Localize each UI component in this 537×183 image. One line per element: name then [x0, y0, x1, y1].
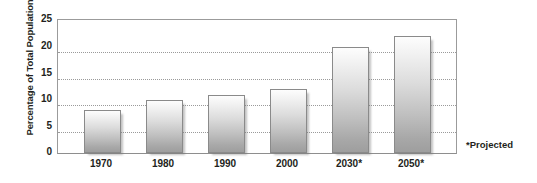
bar-1990[interactable]	[208, 95, 245, 154]
y-axis-tick-labels: 25 20 15 10 5 0	[30, 0, 52, 183]
x-tick-2050: 2050*	[381, 158, 441, 169]
y-tick-10: 10	[30, 94, 52, 104]
y-tick-15: 15	[30, 68, 52, 78]
x-tick-2000: 2000	[257, 158, 317, 169]
y-tick-5: 5	[30, 121, 52, 131]
y-tick-20: 20	[30, 41, 52, 51]
bar-1970[interactable]	[84, 110, 121, 153]
bar-2000[interactable]	[270, 89, 307, 153]
x-tick-1990: 1990	[195, 158, 255, 169]
bar-1980[interactable]	[146, 100, 183, 153]
projected-footnote: *Projected	[466, 139, 513, 150]
x-tick-1970: 1970	[71, 158, 131, 169]
y-tick-0: 0	[30, 147, 52, 157]
bar-2050-projected[interactable]	[394, 36, 431, 153]
x-axis-tick-labels: 1970 1980 1990 2000 2030* 2050*	[57, 158, 455, 178]
bars-layer	[58, 20, 456, 153]
plot-area	[57, 19, 457, 154]
bar-chart: Percentage of Total Population 25 20 15 …	[0, 0, 537, 183]
x-tick-1980: 1980	[133, 158, 193, 169]
y-tick-25: 25	[30, 14, 52, 24]
x-tick-2030: 2030*	[319, 158, 379, 169]
bar-2030-projected[interactable]	[332, 47, 369, 153]
